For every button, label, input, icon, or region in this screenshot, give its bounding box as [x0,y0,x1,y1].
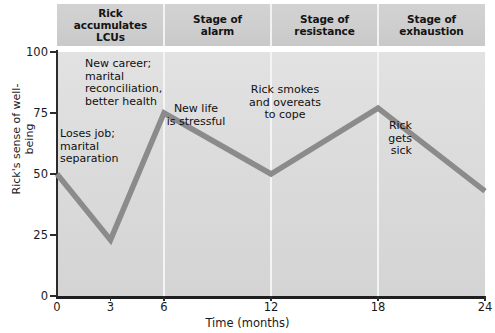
x-tick-label-24: 24 [478,300,493,314]
annotation-5: Rick gets sick [388,120,412,158]
x-tick-label-3: 3 [107,300,114,314]
annotation-2: New career; marital reconciliation, bett… [85,58,162,108]
stage-label-1: Rick accumulates LCUs [57,4,164,46]
y-axis-line [56,50,58,298]
y-axis-title: Rick's sense of well-being [10,69,36,209]
x-tick-label-12: 12 [264,300,279,314]
annotation-4: Rick smokes and overeats to cope [249,84,321,122]
x-tick-label-18: 18 [371,300,386,314]
y-tick-label-25: 25 [0,228,55,242]
plot-divider-1 [163,52,165,296]
stage-divider-1 [163,4,165,46]
x-tick-label-6: 6 [160,300,167,314]
stage-label-2: Stage of alarm [164,4,271,46]
stage-header-band: Rick accumulates LCUsStage of alarmStage… [57,4,485,46]
stage-divider-2 [270,4,272,46]
x-tick-label-0: 0 [53,300,60,314]
stage-label-3: Stage of resistance [271,4,378,46]
y-tick-label-0: 0 [0,289,55,303]
x-axis-title: Time (months) [0,316,495,330]
y-tick-label-100: 100 [0,45,55,59]
stage-divider-3 [377,4,379,46]
stress-well-being-chart: Rick accumulates LCUsStage of alarmStage… [0,0,495,333]
annotation-3: New life is stressful [167,103,226,128]
plot-divider-3 [377,52,379,296]
stage-label-4: Stage of exhaustion [378,4,485,46]
annotation-1: Loses job; marital separation [60,128,119,166]
